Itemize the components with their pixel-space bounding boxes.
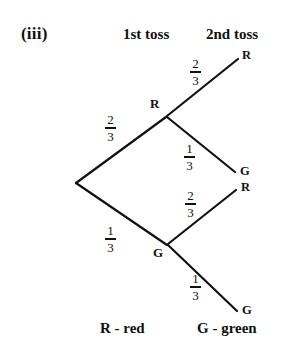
probability-first-green: 1 3 <box>105 224 116 254</box>
probability-red-then-green: 1 3 <box>184 142 195 172</box>
fraction-numerator: 2 <box>106 113 115 126</box>
leaf-green-red: R <box>241 181 250 194</box>
branch-red-to-green <box>167 117 235 172</box>
probability-tree-figure: (iii) 1st toss 2nd toss R G R G R G 2 3 … <box>0 0 289 355</box>
probability-green-then-green: 1 3 <box>190 272 201 302</box>
leaf-green-green: G <box>242 304 252 317</box>
fraction-numerator: 1 <box>185 142 194 155</box>
branch-red-to-red <box>167 59 238 116</box>
fraction-numerator: 2 <box>191 57 200 70</box>
branch-root-to-green <box>76 183 167 245</box>
legend-green: G - green <box>197 321 257 336</box>
branch-root-to-red <box>76 117 166 183</box>
fraction-numerator: 1 <box>106 224 115 237</box>
fraction-numerator: 1 <box>191 272 200 285</box>
branch-green-to-red <box>168 190 236 244</box>
probability-first-red: 2 3 <box>105 113 116 143</box>
branch-green-to-green <box>168 245 237 311</box>
fraction-denominator: 3 <box>186 206 195 219</box>
fraction-denominator: 3 <box>106 130 115 143</box>
probability-red-then-red: 2 3 <box>190 57 201 87</box>
leaf-red-green: G <box>240 165 250 178</box>
fraction-denominator: 3 <box>185 159 194 172</box>
fraction-denominator: 3 <box>191 74 200 87</box>
leaf-red-red: R <box>242 49 251 62</box>
fraction-denominator: 3 <box>191 289 200 302</box>
node-first-toss-red: R <box>150 97 159 110</box>
header-second-toss: 2nd toss <box>206 27 258 42</box>
header-first-toss: 1st toss <box>123 27 169 42</box>
part-label: (iii) <box>21 25 48 42</box>
fraction-denominator: 3 <box>106 241 115 254</box>
legend-red: R - red <box>100 321 145 336</box>
probability-green-then-red: 2 3 <box>185 189 196 219</box>
fraction-numerator: 2 <box>186 189 195 202</box>
node-first-toss-green: G <box>153 246 163 259</box>
